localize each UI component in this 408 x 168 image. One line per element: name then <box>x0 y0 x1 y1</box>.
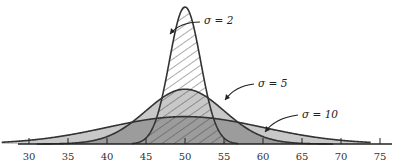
x-tick-label: 60 <box>257 151 270 162</box>
x-tick-label: 35 <box>62 151 75 162</box>
x-tick-label: 50 <box>179 151 192 162</box>
plot-area <box>2 7 371 144</box>
x-tick-label: 75 <box>374 151 387 162</box>
normal-distributions-chart: 30354045505560657075 σ = 2σ = 5σ = 10 <box>0 0 408 168</box>
x-tick-label: 70 <box>335 151 348 162</box>
sigma-label: σ = 10 <box>302 108 338 120</box>
sigma-label: σ = 5 <box>258 77 288 89</box>
x-tick-label: 30 <box>23 151 36 162</box>
sigma-label: σ = 2 <box>204 14 234 26</box>
x-tick-label: 55 <box>218 151 231 162</box>
x-tick-label: 65 <box>296 151 309 162</box>
x-tick-label: 45 <box>140 151 153 162</box>
x-tick-label: 40 <box>101 151 114 162</box>
